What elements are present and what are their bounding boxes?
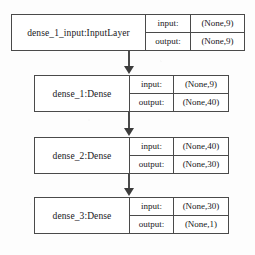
graph-node-dense-3[interactable]: dense_3:Dense input: (None,30) output: (…	[34, 197, 229, 234]
model-graph-canvas: dense_1_input:InputLayer input: (None,9)…	[0, 0, 255, 255]
node-input-row: input: (None,9)	[146, 15, 244, 33]
node-input-row: input: (None,9)	[130, 76, 228, 94]
output-shape-value: (None,1)	[174, 216, 228, 234]
input-shape-value: (None,40)	[174, 138, 228, 155]
arrowhead-icon	[124, 66, 134, 74]
node-output-row: output: (None,9)	[146, 33, 244, 51]
node-io-table: input: (None,40) output: (None,30)	[130, 138, 228, 173]
node-name-label: dense_1_input:InputLayer	[12, 15, 146, 50]
node-output-row: output: (None,1)	[130, 216, 228, 234]
input-label: input:	[130, 138, 174, 155]
input-label: input:	[130, 198, 174, 215]
output-label: output:	[146, 33, 191, 51]
node-name-label: dense_2:Dense	[35, 138, 130, 173]
output-label: output:	[130, 94, 174, 112]
input-label: input:	[146, 15, 191, 32]
node-input-row: input: (None,30)	[130, 198, 228, 216]
output-label: output:	[130, 156, 174, 174]
node-io-table: input: (None,30) output: (None,1)	[130, 198, 228, 233]
graph-node-dense-2[interactable]: dense_2:Dense input: (None,40) output: (…	[34, 137, 229, 174]
output-shape-value: (None,40)	[174, 94, 228, 112]
node-output-row: output: (None,40)	[130, 94, 228, 112]
input-shape-value: (None,9)	[191, 15, 244, 32]
output-shape-value: (None,9)	[191, 33, 244, 51]
node-io-table: input: (None,9) output: (None,40)	[130, 76, 228, 111]
output-label: output:	[130, 216, 174, 234]
node-name-label: dense_1:Dense	[35, 76, 130, 111]
input-shape-value: (None,30)	[174, 198, 228, 215]
node-io-table: input: (None,9) output: (None,9)	[146, 15, 244, 50]
node-input-row: input: (None,40)	[130, 138, 228, 156]
node-name-label: dense_3:Dense	[35, 198, 130, 233]
arrowhead-icon	[124, 128, 134, 136]
input-shape-value: (None,9)	[174, 76, 228, 93]
graph-node-dense-1[interactable]: dense_1:Dense input: (None,9) output: (N…	[34, 75, 229, 112]
node-output-row: output: (None,30)	[130, 156, 228, 174]
input-label: input:	[130, 76, 174, 93]
output-shape-value: (None,30)	[174, 156, 228, 174]
arrowhead-icon	[124, 188, 134, 196]
graph-node-dense-1-input[interactable]: dense_1_input:InputLayer input: (None,9)…	[11, 14, 245, 51]
